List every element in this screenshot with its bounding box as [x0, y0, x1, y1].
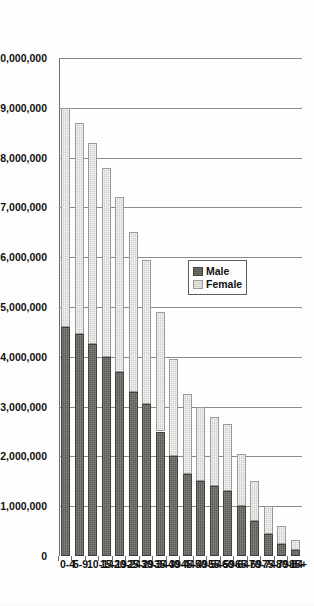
bar-segment-female: [169, 359, 178, 456]
bar-segment-male: [129, 392, 138, 556]
bar-row: [129, 0, 138, 606]
value-axis-tick-label: 1,000,000: [0, 500, 47, 512]
value-axis-tick-label: 9,000,000: [0, 102, 47, 114]
category-tick: [112, 556, 113, 561]
value-axis-tick-label: 4,000,000: [0, 351, 47, 363]
value-axis-tick-label: 10,000,000: [0, 52, 47, 64]
bar-segment-female: [237, 454, 246, 506]
legend-swatch-male-icon: [193, 266, 203, 275]
bar-segment-male: [210, 486, 219, 556]
bar-row: [291, 0, 300, 606]
bar-row: [142, 0, 151, 606]
bar-segment-female: [156, 312, 165, 432]
bar-segment-male: [196, 481, 205, 556]
category-tick: [220, 556, 221, 561]
bar-segment-male: [61, 327, 70, 556]
bar-segment-female: [264, 506, 273, 533]
value-axis-tick-label: 3,000,000: [0, 401, 47, 413]
bar-segment-female: [277, 526, 286, 543]
category-tick: [247, 556, 248, 561]
bar-row: [61, 0, 70, 606]
bar-segment-female: [223, 424, 232, 491]
legend-item-male: Male: [193, 265, 242, 277]
bar-segment-female: [129, 232, 138, 391]
category-tick: [139, 556, 140, 561]
population-pyramid-chart: 10,000,0009,000,0008,000,0007,000,0006,0…: [0, 0, 314, 606]
bar-segment-male: [115, 372, 124, 556]
category-tick: [58, 556, 59, 561]
value-axis-tick-label: 5,000,000: [0, 301, 47, 313]
legend-item-female: Female: [193, 278, 242, 290]
category-tick: [274, 556, 275, 561]
value-axis-tick-label: 6,000,000: [0, 251, 47, 263]
bar-segment-male: [223, 491, 232, 556]
bar-segment-male: [169, 456, 178, 556]
bar-row: [223, 0, 232, 606]
category-axis-label: 85+: [289, 558, 307, 570]
rotated-chart-canvas: 10,000,0009,000,0008,000,0007,000,0006,0…: [0, 0, 314, 606]
bar-segment-female: [183, 394, 192, 474]
bar-segment-female: [75, 123, 84, 335]
legend-label-female: Female: [206, 278, 242, 290]
bar-row: [264, 0, 273, 606]
value-axis-tick-label: 7,000,000: [0, 201, 47, 213]
bar-row: [196, 0, 205, 606]
bar-segment-male: [237, 506, 246, 556]
bar-segment-female: [142, 260, 151, 404]
bar-segment-male: [277, 544, 286, 556]
bar-segment-male: [183, 474, 192, 556]
bar-row: [183, 0, 192, 606]
bar-row: [210, 0, 219, 606]
category-tick: [85, 556, 86, 561]
bar-segment-female: [291, 540, 300, 550]
bar-segment-male: [88, 344, 97, 556]
bar-row: [277, 0, 286, 606]
bar-segment-female: [102, 168, 111, 357]
bar-segment-female: [210, 417, 219, 487]
bar-segment-female: [115, 197, 124, 371]
value-axis-tick-label: 8,000,000: [0, 152, 47, 164]
bar-segment-male: [250, 521, 259, 556]
bar-segment-male: [156, 432, 165, 557]
bar-segment-male: [102, 357, 111, 556]
bar-row: [250, 0, 259, 606]
bar-segment-female: [88, 143, 97, 345]
bar-segment-male: [291, 550, 300, 556]
value-axis-tick-label: 0: [0, 550, 47, 562]
bar-row: [75, 0, 84, 606]
bar-row: [115, 0, 124, 606]
legend-label-male: Male: [206, 265, 229, 277]
legend-swatch-female-icon: [193, 279, 203, 288]
bar-segment-female: [250, 481, 259, 521]
bar-row: [169, 0, 178, 606]
bar-row: [88, 0, 97, 606]
bar-segment-male: [264, 534, 273, 556]
category-tick: [193, 556, 194, 561]
chart-legend: Male Female: [188, 260, 247, 295]
category-tick: [166, 556, 167, 561]
bar-segment-female: [196, 407, 205, 482]
bar-segment-male: [75, 334, 84, 556]
bar-segment-female: [61, 108, 70, 327]
bar-row: [237, 0, 246, 606]
bar-segment-male: [142, 404, 151, 556]
bar-row: [156, 0, 165, 606]
value-axis-tick-label: 2,000,000: [0, 450, 47, 462]
bar-row: [102, 0, 111, 606]
